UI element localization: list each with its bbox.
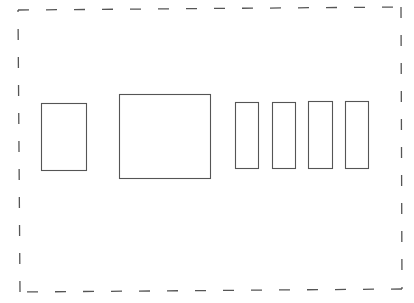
diagram-svg: [0, 0, 414, 303]
box-2: [120, 95, 211, 179]
frame-right-edge: [401, 7, 402, 289]
frame-top-edge: [18, 7, 401, 10]
box-4: [273, 103, 296, 169]
box-5: [309, 102, 333, 169]
boxes-group: [42, 95, 369, 179]
box-3: [236, 103, 259, 169]
frame-bottom-edge: [20, 289, 402, 292]
diagram-canvas: [0, 0, 414, 303]
box-1: [42, 104, 87, 171]
frame-left-edge: [18, 10, 20, 292]
box-6: [346, 102, 369, 169]
